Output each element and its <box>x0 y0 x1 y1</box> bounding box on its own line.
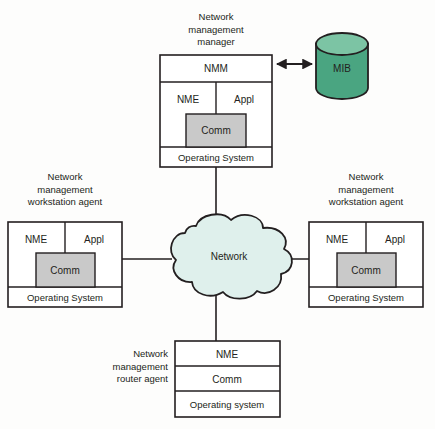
manager-os-label: Operating System <box>178 152 254 163</box>
right-agent-caption-line-1: Network <box>311 171 421 184</box>
right-agent-comm-label: Comm <box>351 265 380 276</box>
manager-caption-line-1: Network <box>166 11 266 24</box>
left-agent-caption-line-1: Network <box>10 171 120 184</box>
manager-caption-line-3: manager <box>166 36 266 49</box>
left-agent-nme-label: NME <box>25 234 47 245</box>
left-agent-caption-line-2: management <box>10 184 120 197</box>
router-agent-caption: Network management router agent <box>55 348 168 386</box>
router-agent-caption-line-1: Network <box>55 348 168 361</box>
manager-caption-line-2: management <box>166 24 266 37</box>
right-agent-caption-line-3: workstation agent <box>311 196 421 209</box>
left-agent-comm-label: Comm <box>50 265 79 276</box>
manager-nme-label: NME <box>177 94 199 105</box>
left-agent-appl-label: Appl <box>84 234 104 245</box>
right-agent-appl-label: Appl <box>385 234 405 245</box>
left-agent-caption-line-3: workstation agent <box>10 196 120 209</box>
right-agent-nme-label: NME <box>326 234 348 245</box>
network-label: Network <box>211 251 248 262</box>
diagram-canvas: Network management manager NMM NME Appl … <box>0 0 435 429</box>
right-agent-os-label: Operating System <box>328 292 404 303</box>
manager-appl-label: Appl <box>234 94 254 105</box>
right-agent-caption-line-2: management <box>311 184 421 197</box>
right-agent-caption: Network management workstation agent <box>311 171 421 209</box>
router-agent-nme-label: NME <box>216 349 238 360</box>
router-agent-comm-label: Comm <box>212 374 241 385</box>
left-agent-os-label: Operating System <box>27 292 103 303</box>
manager-caption: Network management manager <box>166 11 266 49</box>
left-agent-caption: Network management workstation agent <box>10 171 120 209</box>
manager-comm-label: Comm <box>201 125 230 136</box>
mib-label: MIB <box>333 63 351 74</box>
manager-nmm-label: NMM <box>204 63 228 74</box>
router-agent-caption-line-2: management <box>55 361 168 374</box>
router-agent-caption-line-3: router agent <box>55 373 168 386</box>
router-agent-os-label: Operating system <box>190 399 264 410</box>
